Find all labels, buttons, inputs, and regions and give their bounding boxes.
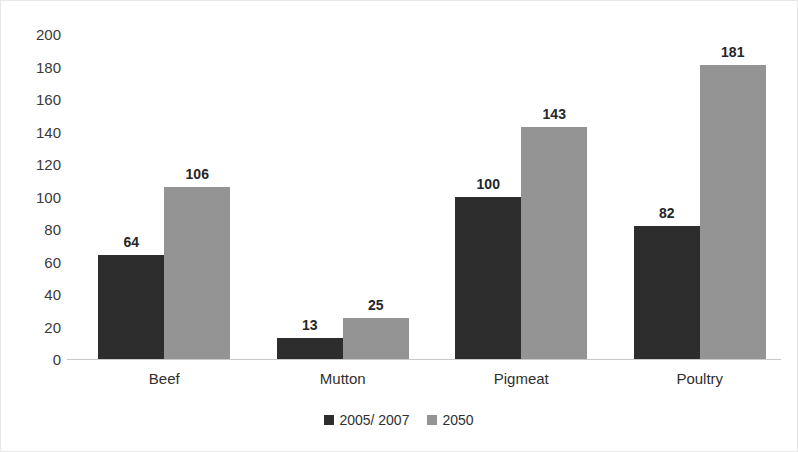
category-label-beef: Beef <box>149 371 180 386</box>
y-axis-tick-label: 100 <box>13 189 61 204</box>
dark-square-swatch <box>324 415 334 425</box>
legend-label: 2050 <box>442 413 473 427</box>
bar-value-label: 143 <box>543 107 566 121</box>
bar-value-label: 181 <box>721 45 744 59</box>
bar[interactable] <box>455 197 521 360</box>
y-axis-tick-label: 200 <box>13 27 61 42</box>
x-axis-line <box>67 359 781 360</box>
plot-area: 64106132510014382181 <box>67 34 781 359</box>
y-axis-tick-label: 40 <box>13 287 61 302</box>
category-label-mutton: Mutton <box>320 371 366 386</box>
y-axis-tick-label: 60 <box>13 254 61 269</box>
y-axis-tick-label: 0 <box>13 352 61 367</box>
bar-value-label: 13 <box>302 318 318 332</box>
bar-value-label: 64 <box>123 235 139 249</box>
y-axis-tick-label: 180 <box>13 59 61 74</box>
bar-value-label: 25 <box>368 298 384 312</box>
bar[interactable] <box>164 187 230 359</box>
y-axis-tick-label: 80 <box>13 222 61 237</box>
y-axis-tick-label: 140 <box>13 124 61 139</box>
y-axis-tick-label: 160 <box>13 92 61 107</box>
bar-value-label: 100 <box>477 177 500 191</box>
legend-label: 2005/ 2007 <box>339 413 409 427</box>
category-label-poultry: Poultry <box>676 371 723 386</box>
legend-item[interactable]: 2005/ 2007 <box>324 413 409 427</box>
bar[interactable] <box>700 65 766 359</box>
bar[interactable] <box>343 318 409 359</box>
y-axis-tick-label: 120 <box>13 157 61 172</box>
bar[interactable] <box>277 338 343 359</box>
bar-value-label: 82 <box>659 206 675 220</box>
chart-legend: 2005/ 20072050 <box>1 413 797 427</box>
y-axis: 200180160140120100806040200 <box>7 1 61 452</box>
bar-value-label: 106 <box>186 167 209 181</box>
bar[interactable] <box>98 255 164 359</box>
bar[interactable] <box>521 127 587 359</box>
category-label-pigmeat: Pigmeat <box>494 371 549 386</box>
y-axis-tick-label: 20 <box>13 319 61 334</box>
bar[interactable] <box>634 226 700 359</box>
gray-square-swatch <box>427 415 437 425</box>
legend-item[interactable]: 2050 <box>427 413 473 427</box>
bar-chart: 200180160140120100806040200 641061325100… <box>0 0 798 452</box>
